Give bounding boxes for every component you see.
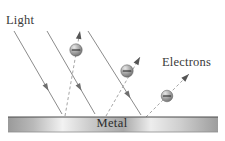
electron-sphere-1	[70, 44, 82, 56]
electron-sphere-3	[161, 90, 173, 102]
electron-track-2-arrowhead	[134, 57, 140, 65]
light-ray-1-arrowhead	[43, 83, 49, 91]
electron-track-2	[106, 57, 140, 116]
electron-track-1-line	[65, 31, 80, 116]
electron-track-2-line	[106, 57, 140, 116]
electron-track-1-arrowhead	[76, 31, 82, 39]
light-ray-2	[47, 31, 95, 114]
electron-sphere-2	[121, 65, 133, 77]
electron-particles	[70, 44, 173, 102]
light-ray-2-line	[47, 31, 95, 114]
electrons-label: Electrons	[162, 55, 211, 69]
light-ray-1	[14, 31, 62, 114]
figure-canvas: Metal Light Electrons	[0, 0, 225, 141]
metal-plate: Metal	[8, 116, 218, 132]
light-ray-1-line	[14, 31, 62, 114]
electron-track-3-arrowhead	[181, 74, 189, 82]
light-label: Light	[6, 13, 34, 27]
light-ray-3-arrowhead	[124, 90, 130, 98]
metal-label: Metal	[96, 116, 127, 130]
electron-track-1	[65, 31, 81, 116]
light-ray-2-arrowhead	[76, 83, 82, 91]
photoelectric-effect-figure: Metal Light Electrons	[0, 0, 225, 141]
